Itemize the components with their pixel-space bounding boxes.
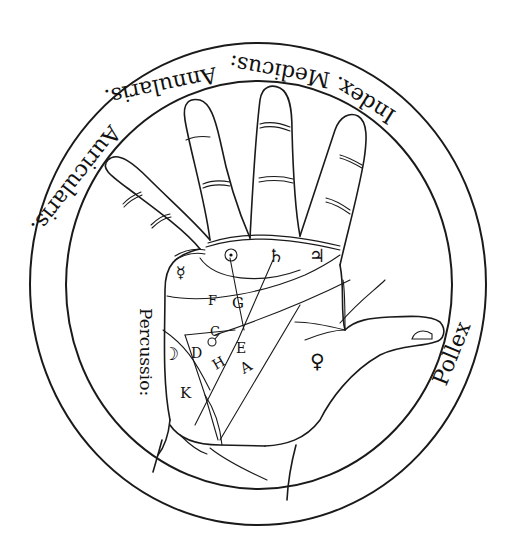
letter-A: A xyxy=(236,357,255,379)
label-annularis: Annularis. xyxy=(102,62,220,110)
label-medicus: Medicus: xyxy=(227,50,332,92)
letter-E: E xyxy=(236,340,246,356)
hand-outline xyxy=(105,86,444,500)
letter-C: C xyxy=(210,324,220,339)
label-percussio: Percussio: xyxy=(136,308,156,396)
letter-H: H xyxy=(209,353,228,373)
saturn-icon: ♄ xyxy=(268,245,284,266)
diagram-canvas: Index. Medicus: Annularis. Auricularis. … xyxy=(0,0,517,554)
letter-F: F xyxy=(208,293,217,308)
palmistry-diagram: Index. Medicus: Annularis. Auricularis. … xyxy=(0,0,517,554)
inner-ring xyxy=(66,81,452,489)
letter-K: K xyxy=(180,384,192,402)
moon-icon: ☽ xyxy=(163,343,179,364)
palm-letters: F G C D H E A K xyxy=(180,293,255,402)
letter-D: D xyxy=(191,345,202,361)
jupiter-icon: ♃ xyxy=(309,245,325,266)
mercury-icon: ☿ xyxy=(176,263,186,282)
venus-icon: ♀ xyxy=(310,349,325,373)
sun-dot xyxy=(229,253,232,256)
label-index: Index. xyxy=(328,71,400,129)
letter-G: G xyxy=(232,294,244,312)
